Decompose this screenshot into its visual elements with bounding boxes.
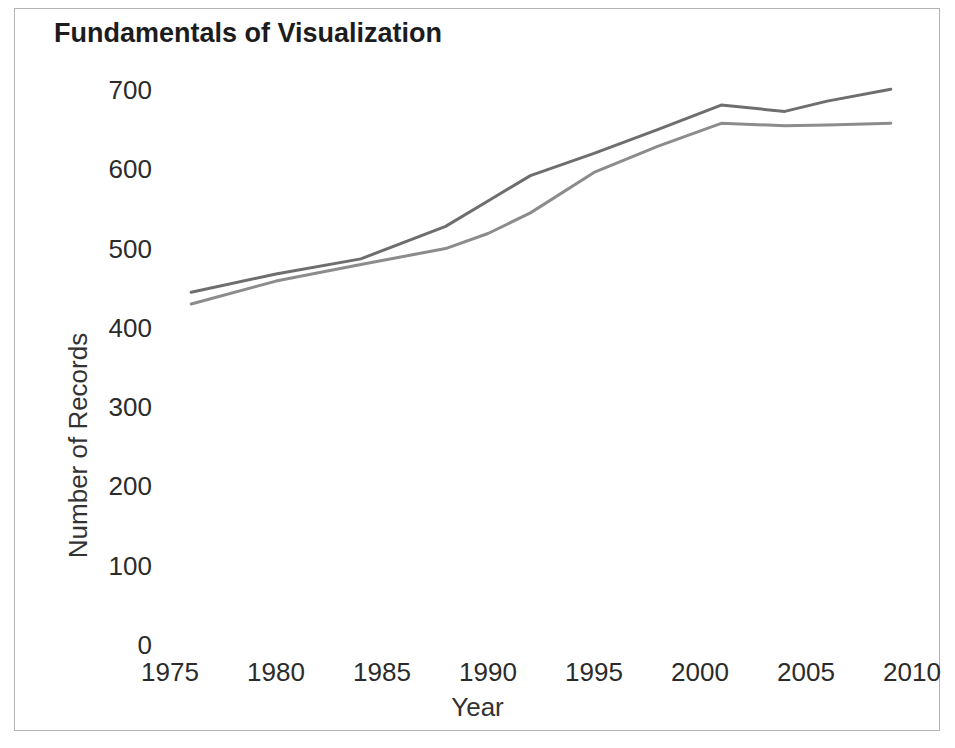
chart-figure: Fundamentals of Visualization Number of … (0, 0, 955, 748)
line-series-upper (191, 89, 891, 292)
plot-lines (0, 0, 955, 748)
line-series-lower (191, 123, 891, 304)
